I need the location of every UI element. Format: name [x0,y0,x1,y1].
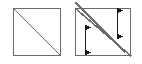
diagram-canvas [0,0,142,64]
figure-container [0,0,142,64]
diagram-background [0,0,142,64]
